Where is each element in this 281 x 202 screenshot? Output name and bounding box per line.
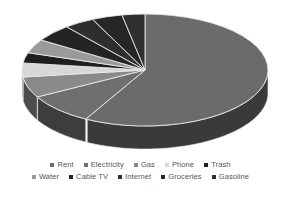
legend-swatch-icon (50, 163, 54, 167)
legend-row-2: WaterCable TVInternetGroceriesGasoline (27, 172, 254, 181)
legend-swatch-icon (161, 175, 165, 179)
legend-item-phone[interactable]: Phone (165, 160, 194, 169)
legend-item-label: Phone (172, 160, 194, 169)
legend-item-label: Gas (141, 160, 155, 169)
legend-item-label: Water (39, 172, 59, 181)
legend-item-internet[interactable]: Internet (118, 172, 151, 181)
legend-swatch-icon (134, 163, 138, 167)
legend-swatch-icon (204, 163, 208, 167)
legend-row-1: RentElectricityGasPhoneTrash (45, 160, 235, 169)
legend-item-rent[interactable]: Rent (50, 160, 73, 169)
legend-item-electricity[interactable]: Electricity (84, 160, 124, 169)
legend-item-gas[interactable]: Gas (134, 160, 155, 169)
legend-swatch-icon (165, 163, 169, 167)
legend-item-label: Electricity (91, 160, 124, 169)
legend-item-label: Trash (211, 160, 230, 169)
legend-item-cable-tv[interactable]: Cable TV (69, 172, 108, 181)
chart-legend: RentElectricityGasPhoneTrash WaterCable … (0, 160, 281, 200)
legend-item-label: Internet (125, 172, 151, 181)
pie-chart-plot-area: RentElectricityGasPhoneTrashWaterCable T… (0, 0, 281, 158)
legend-item-gasoline[interactable]: Gasoline (212, 172, 249, 181)
pie-top-face-slices: RentElectricityGasPhoneTrashWaterCable T… (22, 14, 268, 126)
legend-swatch-icon (118, 175, 122, 179)
legend-item-label: Gasoline (219, 172, 249, 181)
legend-item-trash[interactable]: Trash (204, 160, 230, 169)
legend-item-label: Rent (57, 160, 73, 169)
legend-swatch-icon (84, 163, 88, 167)
legend-item-label: Cable TV (76, 172, 108, 181)
legend-swatch-icon (32, 175, 36, 179)
pie-chart-svg: RentElectricityGasPhoneTrashWaterCable T… (0, 0, 281, 158)
legend-item-label: Groceries (168, 172, 201, 181)
legend-swatch-icon (212, 175, 216, 179)
legend-item-water[interactable]: Water (32, 172, 59, 181)
legend-item-groceries[interactable]: Groceries (161, 172, 201, 181)
pie-chart-figure: RentElectricityGasPhoneTrashWaterCable T… (0, 0, 281, 202)
legend-swatch-icon (69, 175, 73, 179)
